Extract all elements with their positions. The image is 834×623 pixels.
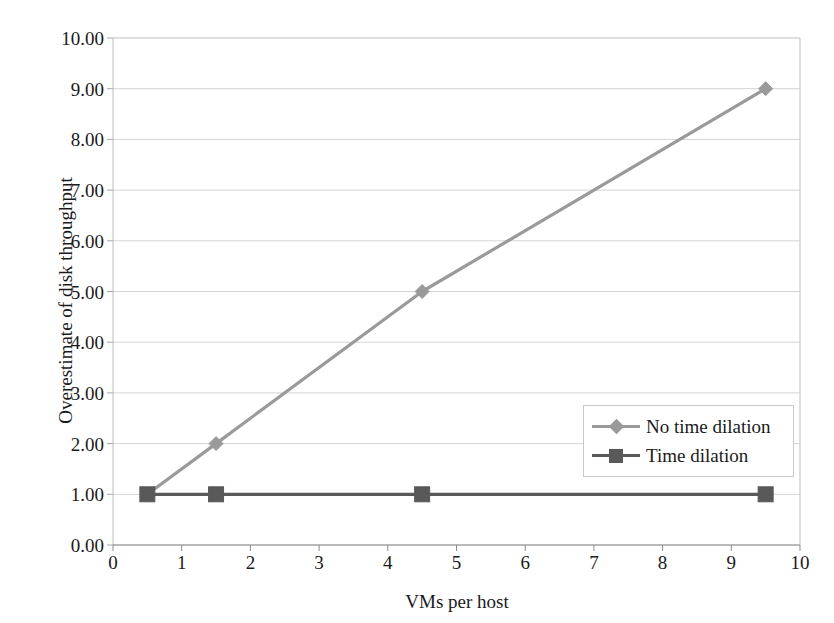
x-tick-label: 4 — [358, 553, 418, 572]
legend-item[interactable]: No time dilation — [592, 412, 785, 441]
y-axis-tick-marks — [107, 38, 113, 545]
x-tick-label: 8 — [633, 553, 693, 572]
x-tick-label: 1 — [152, 553, 212, 572]
data-point-square — [140, 487, 155, 502]
x-axis-title: VMs per host — [112, 592, 802, 611]
x-tick-label: 10 — [770, 553, 830, 572]
data-point-square — [209, 487, 224, 502]
series-time-dilation — [140, 487, 773, 502]
data-point-square — [415, 487, 430, 502]
x-tick-label: 9 — [701, 553, 761, 572]
x-tick-label: 6 — [495, 553, 555, 572]
disk-throughput-line-chart: Overestimate of disk throughput 0.001.00… — [0, 0, 834, 623]
data-point-diamond — [759, 82, 773, 96]
data-point-square — [758, 487, 773, 502]
legend-item[interactable]: Time dilation — [592, 441, 785, 470]
x-tick-label: 0 — [83, 553, 143, 572]
plot-area — [0, 0, 834, 623]
x-tick-label: 7 — [564, 553, 624, 572]
x-tick-label: 3 — [289, 553, 349, 572]
legend-marker-diamond-icon — [608, 419, 624, 435]
legend-swatch — [592, 418, 640, 436]
chart-legend: No time dilationTime dilation — [583, 405, 794, 477]
x-tick-label: 5 — [427, 553, 487, 572]
legend-label: Time dilation — [646, 446, 748, 465]
legend-label: No time dilation — [646, 417, 771, 436]
x-tick-label: 2 — [220, 553, 280, 572]
legend-marker-square-icon — [609, 449, 623, 463]
x-axis-tick-marks — [113, 545, 800, 551]
legend-swatch — [592, 447, 640, 465]
